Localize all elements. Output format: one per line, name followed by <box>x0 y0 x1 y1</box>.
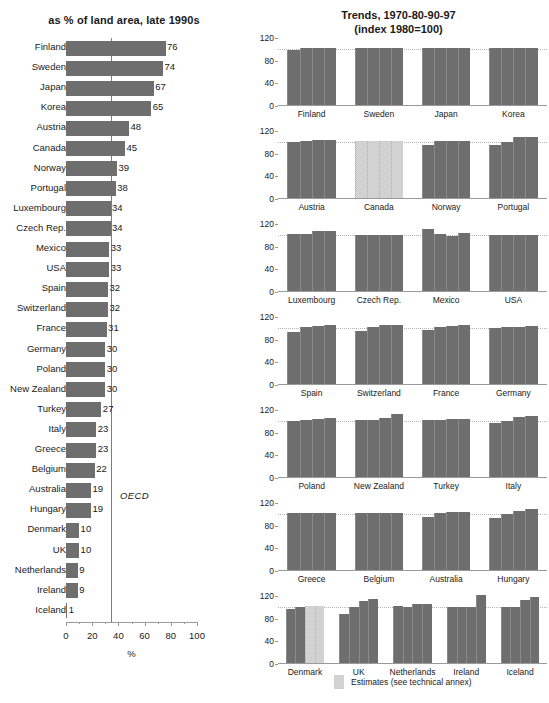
trend-bar <box>525 48 537 105</box>
trend-bar <box>300 513 312 570</box>
trend-bar <box>446 326 458 384</box>
bar-fill <box>66 583 78 598</box>
x-axis-tick-label: 40 <box>113 630 124 641</box>
x-axis-tick <box>66 622 67 626</box>
bar-fill <box>66 443 96 458</box>
trend-group-label: Netherlands <box>390 667 436 677</box>
trend-bar <box>513 417 525 477</box>
bar-fill <box>66 121 129 136</box>
trend-group <box>355 38 403 105</box>
trend-group <box>422 317 470 384</box>
trend-group-label: Belgium <box>364 574 395 584</box>
x-axis-tick-label: 20 <box>87 630 98 641</box>
bar-category-label: Iceland <box>0 604 66 615</box>
trend-bar <box>422 229 434 291</box>
x-axis-tick <box>118 622 119 626</box>
mini-y-tick-label: 120 <box>260 312 274 322</box>
trend-group-label: Australia <box>430 574 463 584</box>
trend-bar <box>367 513 379 570</box>
trend-bar <box>458 48 470 105</box>
x-axis-tick-label: 0 <box>63 630 68 641</box>
trend-bar <box>520 600 530 663</box>
trend-bar <box>501 514 513 570</box>
x-axis-tick-label: 80 <box>166 630 177 641</box>
bar-fill <box>66 81 154 96</box>
bar-value-label: 34 <box>112 222 123 233</box>
trend-bar <box>324 48 336 105</box>
mini-plot-area: GreeceBelgiumAustraliaHungary <box>278 503 547 571</box>
mini-y-tick-label: 80 <box>265 56 274 66</box>
bar-category-label: Greece <box>0 443 66 454</box>
bar-value-label: 48 <box>130 121 141 132</box>
trend-bar <box>324 140 336 198</box>
bar-fill <box>66 262 109 277</box>
trend-bar <box>530 597 540 663</box>
bar-fill <box>66 282 108 297</box>
trend-bar <box>501 142 513 198</box>
bar-fill <box>66 362 105 377</box>
bar-value-label: 30 <box>107 363 118 374</box>
bar-value-label: 33 <box>111 242 122 253</box>
bar-value-label: 23 <box>98 443 109 454</box>
bar-category-label: Hungary <box>0 503 66 514</box>
bar-fill <box>66 483 91 498</box>
mini-y-tick-label: 0 <box>269 194 274 204</box>
bar-fill <box>66 221 111 236</box>
trend-bar <box>324 325 336 384</box>
mini-y-tick <box>275 106 278 107</box>
trend-bar <box>287 332 299 384</box>
right-chart-title-line1: Trends, 1970-80-90-97 <box>248 8 549 22</box>
trend-bar <box>367 327 379 384</box>
trend-group <box>393 596 432 663</box>
mini-y-axis: 04080120 <box>248 503 278 571</box>
x-axis-minor-tick <box>79 622 80 624</box>
trend-bar <box>489 235 501 291</box>
trend-group <box>489 317 537 384</box>
trend-group-label: Italy <box>506 481 522 491</box>
x-axis-tick <box>171 622 172 626</box>
bar-fill <box>66 322 107 337</box>
trend-group <box>422 131 470 198</box>
trend-group <box>489 503 537 570</box>
trend-bar <box>513 327 525 384</box>
trend-bar <box>339 614 349 663</box>
trends-panel: Trends, 1970-80-90-97 (index 1980=100) E… <box>248 0 549 703</box>
mini-y-tick-label: 120 <box>260 591 274 601</box>
trend-bar <box>300 420 312 477</box>
bar-fill <box>66 422 96 437</box>
trend-group-label: Spain <box>301 388 323 398</box>
bar-row: Iceland1 <box>0 601 248 624</box>
trend-bar <box>434 420 446 477</box>
chart-page: as % of land area, late 1990s OECD % Fin… <box>0 0 549 703</box>
mini-baseline <box>278 384 547 385</box>
trend-group <box>355 317 403 384</box>
right-chart-title: Trends, 1970-80-90-97 (index 1980=100) <box>248 8 549 36</box>
bar-value-label: 39 <box>119 162 130 173</box>
trend-row: 04080120GreeceBelgiumAustraliaHungary <box>248 503 549 593</box>
trend-group-label: Ireland <box>453 667 479 677</box>
trend-group-label: Finland <box>298 109 326 119</box>
trend-bar <box>422 330 434 384</box>
trend-bar <box>379 513 391 570</box>
trend-bar <box>458 419 470 477</box>
trend-bar-estimate <box>379 141 391 198</box>
mini-y-tick-label: 80 <box>265 614 274 624</box>
bar-fill <box>66 382 105 397</box>
bar-fill <box>66 402 101 417</box>
trend-bar <box>379 325 391 384</box>
bar-value-label: 65 <box>153 101 164 112</box>
bar-category-label: Mexico <box>0 242 66 253</box>
trend-group <box>422 38 470 105</box>
trend-bar <box>466 607 476 663</box>
trend-group <box>355 131 403 198</box>
mini-y-axis: 04080120 <box>248 410 278 478</box>
trend-bar <box>501 421 513 477</box>
bar-category-label: Czech Rep. <box>0 222 66 233</box>
trend-group <box>447 596 486 663</box>
trend-group-label: Canada <box>364 202 394 212</box>
bar-category-label: Australia <box>0 483 66 494</box>
trend-bar <box>312 231 324 291</box>
trend-group-label: Austria <box>298 202 324 212</box>
trend-bar <box>312 326 324 384</box>
mini-y-tick-label: 40 <box>265 78 274 88</box>
